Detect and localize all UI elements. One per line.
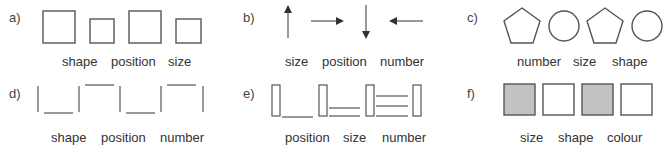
- narrow-bar-icon: [366, 85, 374, 116]
- label-shape: shape: [558, 130, 593, 145]
- gestalt-grouping-diagram: a) shape position size b) size: [0, 0, 671, 151]
- panel-c: c) number size shape: [467, 8, 662, 69]
- arrow-left-icon: [389, 17, 423, 25]
- square-large-icon: [129, 11, 161, 43]
- square-gray-icon: [582, 84, 613, 115]
- label-position: position: [322, 54, 367, 69]
- label-number: number: [380, 54, 425, 69]
- panel-e-letter: e): [243, 86, 255, 101]
- label-size: size: [520, 130, 543, 145]
- label-shape: shape: [612, 54, 647, 69]
- label-position: position: [101, 130, 146, 145]
- panel-c-letter: c): [467, 10, 478, 25]
- panel-d-letter: d): [9, 86, 21, 101]
- label-number: number: [382, 130, 427, 145]
- panel-f-letter: f): [467, 86, 475, 101]
- square-small-icon: [176, 19, 201, 43]
- square-white-icon: [543, 84, 574, 115]
- label-size: size: [573, 54, 596, 69]
- panel-b-letter: b): [243, 10, 255, 25]
- panel-b: b) size position number: [243, 5, 425, 69]
- label-number: number: [517, 54, 562, 69]
- panel-a: a) shape position size: [9, 10, 201, 69]
- arrow-up-icon: [284, 5, 292, 38]
- label-colour: colour: [607, 130, 643, 145]
- pentagon-icon: [587, 8, 623, 43]
- square-gray-icon: [504, 84, 535, 115]
- narrow-bar-icon: [319, 85, 327, 116]
- bracket-lines-icon: [38, 85, 203, 113]
- circle-icon: [632, 11, 662, 41]
- label-position: position: [111, 54, 156, 69]
- narrow-bar-icon: [413, 85, 421, 116]
- square-large-icon: [43, 11, 75, 43]
- arrow-down-icon: [362, 5, 370, 39]
- label-size: size: [285, 54, 308, 69]
- panel-a-letter: a): [9, 10, 21, 25]
- label-number: number: [160, 130, 205, 145]
- circle-icon: [549, 11, 579, 41]
- pentagon-icon: [504, 8, 540, 43]
- square-small-icon: [90, 19, 114, 43]
- square-white-icon: [621, 84, 652, 115]
- arrow-right-icon: [311, 17, 344, 25]
- panel-f: f) size shape colour: [467, 84, 652, 145]
- label-size: size: [343, 130, 366, 145]
- panel-d: d) shape position number: [9, 85, 205, 145]
- label-shape: shape: [51, 130, 86, 145]
- panel-e: e) position size number: [243, 85, 427, 145]
- narrow-bar-icon: [272, 85, 280, 116]
- label-size: size: [168, 54, 191, 69]
- label-position: position: [285, 130, 330, 145]
- label-shape: shape: [62, 54, 97, 69]
